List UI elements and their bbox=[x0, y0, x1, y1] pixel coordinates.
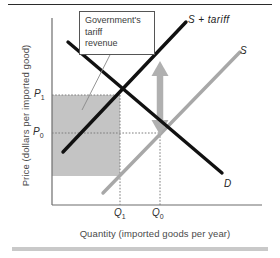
curve-label-demand: D bbox=[224, 178, 232, 189]
y-tick-label-p0: P0 bbox=[33, 126, 44, 139]
callout-line-1: Government's bbox=[85, 15, 150, 27]
tariff-revenue-shaded-region bbox=[52, 95, 120, 176]
tariff-diagram-figure: Price (dollars per imported good) Quanti… bbox=[0, 0, 280, 258]
curve-label-supply: S bbox=[240, 45, 247, 56]
callout-line-2: tariff bbox=[85, 27, 150, 39]
callout-line-3: revenue bbox=[85, 38, 150, 50]
tariff-revenue-callout: Government's tariff revenue bbox=[79, 11, 155, 55]
x-tick-label-q1: Q1 bbox=[114, 207, 126, 220]
y-axis-label: Price (dollars per imported good) bbox=[20, 21, 31, 211]
x-axis-label: Quantity (imported goods per year) bbox=[40, 228, 270, 239]
curve-label-supply-plus-tariff: S + tariff bbox=[188, 14, 230, 25]
x-tick-label-q0: Q0 bbox=[152, 207, 164, 220]
y-tick-label-p1: P1 bbox=[34, 88, 45, 101]
